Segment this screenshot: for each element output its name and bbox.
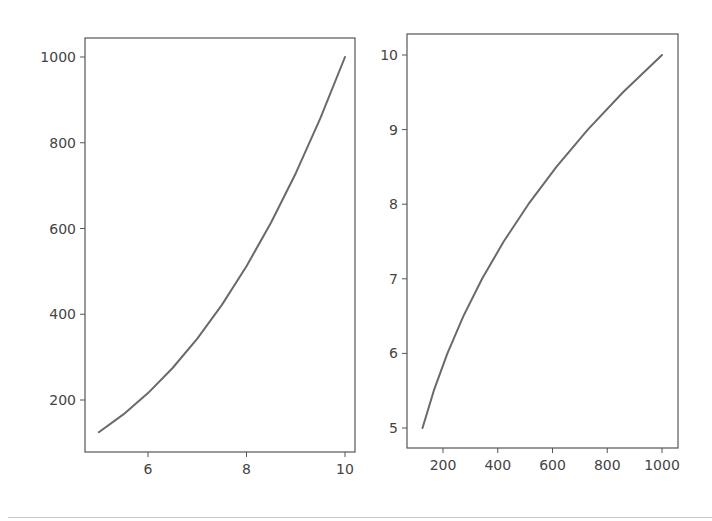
- x-tick-label: 10: [336, 461, 354, 477]
- output-divider: [8, 517, 712, 518]
- left-y-axis: 2004006008001000: [40, 49, 85, 408]
- x-tick-label: 800: [594, 457, 621, 473]
- y-tick-label: 400: [49, 306, 76, 322]
- left-cubic-line: [99, 57, 345, 432]
- right-cube-root-line: [423, 55, 663, 428]
- left-axes-frame: [85, 38, 355, 452]
- x-tick-label: 6: [144, 461, 153, 477]
- left-x-axis: 6810: [144, 452, 354, 477]
- y-tick-label: 1000: [40, 49, 76, 65]
- x-tick-label: 1000: [644, 457, 680, 473]
- x-tick-label: 200: [430, 457, 457, 473]
- x-tick-label: 8: [242, 461, 251, 477]
- right-axes-frame: [407, 34, 678, 448]
- left-subplot: 6810 2004006008001000: [40, 38, 355, 477]
- y-tick-label: 7: [389, 271, 398, 287]
- y-tick-label: 10: [380, 47, 398, 63]
- y-tick-label: 200: [49, 392, 76, 408]
- x-tick-label: 600: [539, 457, 566, 473]
- y-tick-label: 600: [49, 221, 76, 237]
- right-x-axis: 2004006008001000: [430, 448, 680, 473]
- y-tick-label: 8: [389, 196, 398, 212]
- right-subplot: 2004006008001000 5678910: [380, 34, 680, 473]
- y-tick-label: 5: [389, 420, 398, 436]
- right-y-axis: 5678910: [380, 47, 407, 436]
- y-tick-label: 9: [389, 122, 398, 138]
- figure: 6810 2004006008001000 2004006008001000 5…: [0, 0, 712, 521]
- y-tick-label: 6: [389, 345, 398, 361]
- x-tick-label: 400: [484, 457, 511, 473]
- y-tick-label: 800: [49, 135, 76, 151]
